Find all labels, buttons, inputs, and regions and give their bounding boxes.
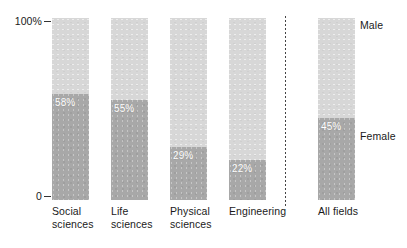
bar-value-label: 58% [55, 97, 75, 108]
bar-engineering[interactable]: 22% [229, 18, 266, 200]
category-label-life-sciences: Life sciences [111, 205, 177, 231]
bar-value-label: 29% [173, 150, 193, 161]
bar-value-label: 55% [114, 103, 134, 114]
section-divider [285, 16, 286, 206]
bar-segment-male [52, 18, 89, 94]
bar-life-sciences[interactable]: 55% [111, 18, 148, 200]
bar-segment-female: 45% [318, 118, 355, 200]
bar-all-fields[interactable]: 45% [318, 18, 355, 200]
legend-label-female: Female [360, 130, 396, 142]
y-axis-tick-label-100: 100% [2, 15, 42, 27]
bar-segment-male [170, 18, 207, 147]
bar-segment-male [229, 18, 266, 160]
bar-segment-female: 58% [52, 94, 89, 200]
bar-segment-male [111, 18, 148, 100]
bar-segment-female: 55% [111, 100, 148, 200]
bar-segment-female: 29% [170, 147, 207, 200]
bar-segment-female: 22% [229, 160, 266, 200]
bar-segment-male [318, 18, 355, 118]
category-label-all-fields: All fields [318, 205, 384, 218]
bar-physical-sciences[interactable]: 29% [170, 18, 207, 200]
bar-value-label: 22% [232, 163, 252, 174]
y-axis-tick-label-0: 0 [2, 190, 42, 202]
bar-social-sciences[interactable]: 58% [52, 18, 89, 200]
y-axis-tick-mark-0 [44, 196, 51, 197]
category-label-engineering: Engineering [229, 205, 295, 218]
bar-value-label: 45% [321, 121, 341, 132]
legend-label-male: Male [360, 19, 383, 31]
y-axis-tick-mark-100 [44, 21, 51, 22]
category-label-physical-sciences: Physical sciences [170, 205, 236, 231]
stacked-bar-chart: 100% 0 58% Social sciences 55% Life scie… [0, 0, 407, 248]
category-label-social-sciences: Social sciences [52, 205, 118, 231]
